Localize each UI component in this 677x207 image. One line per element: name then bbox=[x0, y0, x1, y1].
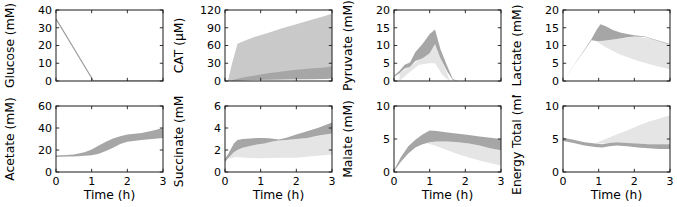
subplot-pyruvate: 05101520Pyruvate (mM) bbox=[338, 0, 507, 95]
x-tick-label: 3 bbox=[160, 175, 167, 188]
subplot-energy-total: 05100123Energy Total (mM)Time (h) bbox=[507, 95, 677, 207]
y-axis-label: CAT (μM) bbox=[172, 18, 186, 74]
x-tick-label: 2 bbox=[631, 175, 638, 188]
y-axis-label: Succinate (mM) bbox=[172, 95, 186, 187]
y-tick-label: 60 bbox=[38, 100, 52, 113]
subplot-cell-pyruvate: 05101520Pyruvate (mM) bbox=[338, 0, 507, 95]
x-tick-label: 3 bbox=[498, 175, 505, 188]
figure: 010203040Glucose (mM)0306090120CAT (μM)0… bbox=[0, 0, 677, 207]
y-tick-label: 120 bbox=[200, 4, 221, 17]
subplot-cell-lactate: 05101520Lactate (mM) bbox=[507, 0, 677, 95]
x-tick-label: 0 bbox=[560, 175, 567, 188]
y-tick-label: 20 bbox=[376, 4, 390, 17]
subplot-cell-malate: 05100123Malate (mM)Time (h) bbox=[338, 95, 507, 207]
y-tick-label: 90 bbox=[207, 22, 221, 35]
y-tick-label: 60 bbox=[207, 39, 221, 52]
subplot-cell-glucose: 010203040Glucose (mM) bbox=[0, 0, 169, 95]
y-tick-label: 0 bbox=[214, 75, 221, 88]
x-tick-label: 2 bbox=[293, 175, 300, 188]
x-axis-label: Time (h) bbox=[421, 188, 473, 202]
x-tick-label: 0 bbox=[53, 175, 60, 188]
y-tick-label: 0 bbox=[45, 166, 52, 179]
y-tick-label: 6 bbox=[214, 100, 221, 113]
y-tick-label: 0 bbox=[383, 166, 390, 179]
x-tick-label: 0 bbox=[391, 175, 398, 188]
y-tick-label: 10 bbox=[545, 39, 559, 52]
subplot-cell-energy-total: 05100123Energy Total (mM)Time (h) bbox=[507, 95, 677, 207]
y-tick-label: 5 bbox=[383, 57, 390, 70]
y-tick-label: 20 bbox=[38, 39, 52, 52]
subplot-cell-acetate: 02040600123Acetate (mM)Time (h) bbox=[0, 95, 169, 207]
y-tick-label: 10 bbox=[376, 100, 390, 113]
subplot-acetate: 02040600123Acetate (mM)Time (h) bbox=[0, 95, 169, 207]
subplot-malate: 05100123Malate (mM)Time (h) bbox=[338, 95, 507, 207]
x-axis-label: Time (h) bbox=[590, 188, 642, 202]
x-tick-label: 2 bbox=[124, 175, 131, 188]
y-tick-label: 30 bbox=[38, 22, 52, 35]
subplot-cell-succinate: 02460123Succinate (mM)Time (h) bbox=[169, 95, 338, 207]
y-tick-label: 40 bbox=[38, 4, 52, 17]
x-tick-label: 0 bbox=[222, 175, 229, 188]
y-tick-label: 4 bbox=[214, 122, 221, 135]
band-dark bbox=[56, 128, 163, 157]
y-tick-label: 15 bbox=[545, 22, 559, 35]
x-axis-label: Time (h) bbox=[83, 188, 135, 202]
x-tick-label: 2 bbox=[462, 175, 469, 188]
subplot-cat: 0306090120CAT (μM) bbox=[169, 0, 338, 95]
band-faint bbox=[595, 37, 670, 70]
x-tick-label: 3 bbox=[329, 175, 336, 188]
data-line bbox=[56, 19, 163, 81]
y-tick-label: 0 bbox=[214, 166, 221, 179]
x-tick-label: 1 bbox=[88, 175, 95, 188]
subplot-cell-cat: 0306090120CAT (μM) bbox=[169, 0, 338, 95]
y-axis-label: Energy Total (mM) bbox=[510, 95, 524, 195]
y-axis-label: Malate (mM) bbox=[341, 100, 355, 178]
x-tick-label: 1 bbox=[426, 175, 433, 188]
y-tick-label: 20 bbox=[38, 144, 52, 157]
subplot-succinate: 02460123Succinate (mM)Time (h) bbox=[169, 95, 338, 207]
y-tick-label: 10 bbox=[545, 100, 559, 113]
x-tick-label: 3 bbox=[667, 175, 674, 188]
x-axis-label: Time (h) bbox=[252, 188, 304, 202]
y-tick-label: 2 bbox=[214, 144, 221, 157]
y-axis-label: Lactate (mM) bbox=[510, 5, 524, 87]
y-tick-label: 5 bbox=[383, 133, 390, 146]
y-tick-label: 5 bbox=[552, 57, 559, 70]
y-tick-label: 30 bbox=[207, 57, 221, 70]
y-tick-label: 10 bbox=[38, 57, 52, 70]
y-tick-label: 0 bbox=[45, 75, 52, 88]
band-faint bbox=[595, 115, 670, 144]
subplot-glucose: 010203040Glucose (mM) bbox=[0, 0, 169, 95]
y-axis-label: Glucose (mM) bbox=[3, 3, 17, 88]
y-tick-label: 0 bbox=[552, 166, 559, 179]
y-tick-label: 5 bbox=[552, 133, 559, 146]
x-tick-label: 1 bbox=[595, 175, 602, 188]
x-tick-label: 1 bbox=[257, 175, 264, 188]
y-tick-label: 20 bbox=[545, 4, 559, 17]
y-axis-label: Acetate (mM) bbox=[3, 97, 17, 180]
y-tick-label: 0 bbox=[552, 75, 559, 88]
y-tick-label: 40 bbox=[38, 122, 52, 135]
y-tick-label: 10 bbox=[376, 39, 390, 52]
y-tick-label: 0 bbox=[383, 75, 390, 88]
y-tick-label: 15 bbox=[376, 22, 390, 35]
y-axis-label: Pyruvate (mM) bbox=[341, 0, 355, 91]
subplot-lactate: 05101520Lactate (mM) bbox=[507, 0, 677, 95]
